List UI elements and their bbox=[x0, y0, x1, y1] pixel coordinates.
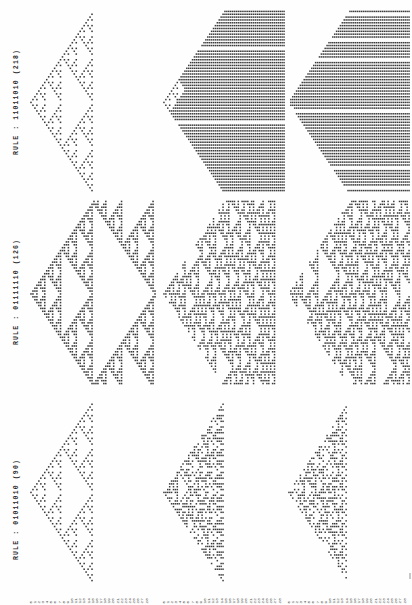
automaton-panel-rule-126-single-cell bbox=[30, 200, 156, 385]
printed-page: RULE : 11011010 (218) RULE : 01111110 (1… bbox=[0, 0, 412, 605]
automaton-canvas bbox=[163, 400, 285, 582]
axis-ticks-column-3: 0123456789101112131415161718192021222324… bbox=[288, 587, 406, 603]
axis-tick: 28 bbox=[146, 587, 150, 603]
rule-label-126: RULE : 01111110 (126) bbox=[13, 239, 20, 345]
rule-label-90: RULE : 01011010 (90) bbox=[13, 459, 20, 560]
automaton-canvas bbox=[30, 200, 156, 385]
axis-tick: 28 bbox=[279, 587, 283, 603]
axis-tick-label: 28 bbox=[277, 598, 281, 603]
automaton-panel-rule-126-random-dense bbox=[288, 200, 410, 385]
automaton-panel-rule-218-single-cell bbox=[30, 10, 156, 192]
automaton-panel-rule-218-random-sparse bbox=[163, 10, 285, 192]
axis-tick-label: 28 bbox=[144, 598, 148, 603]
automaton-canvas bbox=[288, 400, 410, 582]
automaton-canvas bbox=[163, 200, 285, 385]
axis-tick-label: 28 bbox=[402, 598, 406, 603]
automaton-panel-rule-90-single-cell bbox=[30, 400, 156, 582]
automaton-canvas bbox=[163, 10, 285, 192]
automaton-canvas bbox=[30, 400, 156, 582]
automaton-canvas bbox=[30, 10, 156, 192]
rule-label-218: RULE : 11011010 (218) bbox=[13, 49, 20, 155]
automaton-panel-rule-218-random-dense bbox=[288, 10, 410, 192]
automaton-panel-rule-90-random-sparse bbox=[163, 400, 285, 582]
automaton-canvas bbox=[288, 200, 410, 385]
axis-ticks-column-1: 0123456789101112131415161718192021222324… bbox=[30, 587, 150, 603]
automaton-panel-rule-90-random-dense bbox=[288, 400, 410, 582]
automaton-canvas bbox=[288, 10, 410, 192]
axis-ticks-column-2: 0123456789101112131415161718192021222324… bbox=[163, 587, 283, 603]
page-edge-mark bbox=[409, 573, 411, 579]
automaton-panel-rule-126-random-sparse bbox=[163, 200, 285, 385]
axis-tick: 28 bbox=[404, 587, 408, 603]
